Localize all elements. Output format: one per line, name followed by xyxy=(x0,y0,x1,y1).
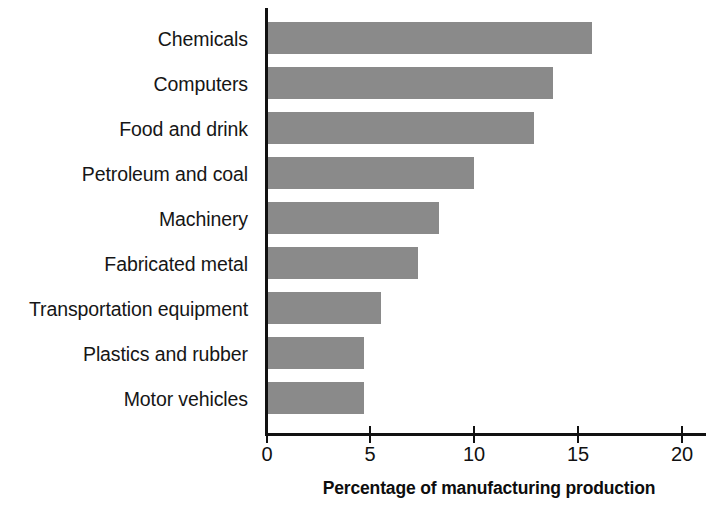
bar xyxy=(267,157,474,189)
x-axis-tick xyxy=(266,426,268,443)
bar xyxy=(267,67,553,99)
category-label: Petroleum and coal xyxy=(0,165,248,185)
category-label-axis: Chemicals Computers Food and drink Petro… xyxy=(0,0,258,434)
category-label: Motor vehicles xyxy=(0,390,248,410)
bar xyxy=(267,247,418,279)
plot-area xyxy=(267,0,711,434)
category-label: Transportation equipment xyxy=(0,300,248,320)
x-axis-tick xyxy=(681,426,683,443)
x-axis-tick-label: 5 xyxy=(364,444,375,464)
x-axis-line xyxy=(265,433,706,436)
x-axis-tick-label: 0 xyxy=(261,444,272,464)
category-label: Plastics and rubber xyxy=(0,345,248,365)
category-label: Machinery xyxy=(0,210,248,230)
category-label: Computers xyxy=(0,75,248,95)
category-label: Chemicals xyxy=(0,30,248,50)
bar xyxy=(267,292,381,324)
category-label: Food and drink xyxy=(0,120,248,140)
y-axis-line xyxy=(265,8,268,436)
bar xyxy=(267,337,364,369)
x-axis-title: Percentage of manufacturing production xyxy=(267,478,711,499)
x-axis-tick xyxy=(473,426,475,443)
bar xyxy=(267,382,364,414)
category-label: Fabricated metal xyxy=(0,255,248,275)
bar xyxy=(267,202,439,234)
bar-chart: Chemicals Computers Food and drink Petro… xyxy=(0,0,711,512)
x-axis-tick-label: 10 xyxy=(463,444,485,464)
x-axis-tick xyxy=(369,426,371,443)
bar xyxy=(267,22,592,54)
x-axis-tick xyxy=(577,426,579,443)
bar xyxy=(267,112,534,144)
x-axis-tick-label: 20 xyxy=(671,444,693,464)
x-axis-tick-label: 15 xyxy=(567,444,589,464)
